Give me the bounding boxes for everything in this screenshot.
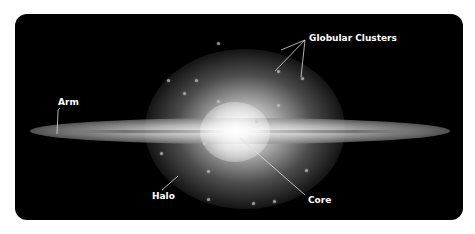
leader-lines	[0, 0, 475, 234]
label-arm: Arm	[58, 97, 79, 107]
label-core: Core	[308, 195, 331, 205]
label-halo: Halo	[152, 191, 175, 201]
label-globular-clusters: Globular Clusters	[309, 33, 397, 43]
